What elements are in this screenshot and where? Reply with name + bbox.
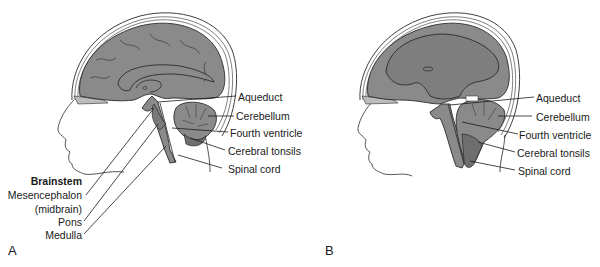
label-spinal-cord-a: Spinal cord — [228, 163, 281, 175]
label-cerebral-tonsils-a: Cerebral tonsils — [228, 145, 301, 157]
label-brainstem-title: Brainstem — [31, 175, 82, 187]
leader-lines-a-brainstem — [84, 108, 166, 234]
face-profile-b — [358, 100, 412, 176]
label-fourth-ventricle-a: Fourth ventricle — [230, 127, 302, 139]
label-pons: Pons — [58, 216, 82, 228]
label-cerebellum-b: Cerebellum — [536, 111, 590, 123]
label-medulla: Medulla — [45, 229, 82, 241]
label-aqueduct-a: Aqueduct — [238, 91, 282, 103]
cerebellum-a — [174, 102, 216, 140]
label-aqueduct-b: Aqueduct — [536, 92, 580, 104]
panel-letter-b: B — [325, 243, 334, 258]
neck-back-b — [500, 135, 505, 172]
label-mesencephalon: Mesencephalon — [8, 189, 82, 201]
label-fourth-ventricle-b: Fourth ventricle — [519, 129, 591, 141]
panel-letter-a: A — [8, 243, 17, 258]
cerebrum-a — [80, 23, 225, 101]
label-midbrain: (midbrain) — [35, 203, 82, 215]
label-spinal-cord-b: Spinal cord — [518, 165, 571, 177]
neck-back — [205, 135, 210, 172]
panel-b-herniated-brain: Aqueduct Cerebellum Fourth ventricle Cer… — [300, 0, 600, 267]
panel-a-normal-brain: Aqueduct Cerebellum Fourth ventricle Cer… — [0, 0, 300, 267]
label-cerebellum-a: Cerebellum — [236, 110, 290, 122]
face-profile — [58, 100, 124, 174]
label-cerebral-tonsils-b: Cerebral tonsils — [517, 147, 590, 159]
